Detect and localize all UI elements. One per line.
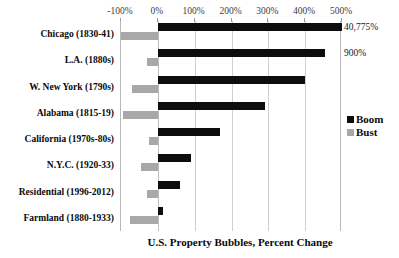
legend-label: Boom [356,113,384,125]
category-label: California (1970s-80s) [25,134,114,144]
x-tickmark-6 [341,18,342,22]
bust-bar [132,85,158,93]
legend-item-boom[interactable]: Boom [347,113,399,125]
bar-row [121,74,340,100]
bar-row [121,152,340,178]
bar-row [121,126,340,152]
plot-area [120,21,341,231]
bar-row [121,47,340,73]
legend-swatch-icon [347,129,354,136]
bar-row [121,21,340,47]
x-tick-label-1: 0% [150,6,163,16]
bust-bar [147,58,158,66]
property-bubbles-bar-chart: -100%0%100%200%300%400%500% Chicago (183… [0,0,399,258]
chart-title: U.S. Property Bubbles, Percent Change [120,236,360,248]
boom-bar [158,181,180,189]
bust-bar [123,111,158,119]
boom-bar [158,154,191,162]
x-tick-label-4: 300% [256,6,278,16]
legend-swatch-icon [347,116,354,123]
x-tick-label-2: 100% [183,6,205,16]
boom-bar [158,49,326,57]
category-label: Farmland (1880-1933) [23,213,114,223]
bust-bar [121,32,158,40]
plot-inner [121,21,340,231]
category-label: W. New York (1790s) [29,82,114,92]
bust-bar [147,190,158,198]
category-label: L.A. (1880s) [65,55,114,65]
x-tick-label-3: 200% [219,6,241,16]
category-label: Residential (1996-2012) [19,187,114,197]
category-label: Alabama (1815-19) [37,108,114,118]
boom-bar [158,207,164,215]
bar-row [121,205,340,231]
legend-item-bust[interactable]: Bust [347,126,399,138]
chart-legend: BoomBust [347,113,399,139]
legend-label: Bust [356,126,377,138]
bust-bar [130,216,158,224]
boom-bar [158,76,305,84]
boom-bar [158,102,265,110]
bar-row [121,179,340,205]
bar-row [121,100,340,126]
bust-bar [141,163,158,171]
category-label: N.Y.C. (1920-33) [47,160,114,170]
bust-bar [149,137,158,145]
x-tick-label-6: 500% [330,6,352,16]
x-tick-label-0: -100% [107,6,132,16]
y-axis-category-labels: Chicago (1830-41)L.A. (1880s)W. New York… [0,21,118,231]
x-tick-label-5: 400% [293,6,315,16]
value-annotation: 40,775% [344,22,378,32]
boom-bar [158,128,221,136]
value-annotation: 900% [344,48,366,58]
boom-bar [158,23,342,31]
category-label: Chicago (1830-41) [40,29,114,39]
